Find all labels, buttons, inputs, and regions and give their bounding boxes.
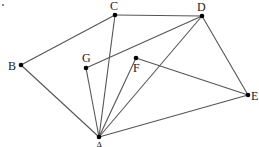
edge-da <box>99 16 202 137</box>
label-g: G <box>82 51 91 65</box>
labels-group: ABCDEFG <box>8 0 258 147</box>
vertex-f <box>134 56 139 61</box>
edge-de <box>202 16 248 95</box>
label-c: C <box>110 0 118 13</box>
geometry-diagram: ABCDEFG <box>0 0 259 147</box>
label-b: B <box>8 59 16 73</box>
corner-speck <box>2 4 4 6</box>
label-d: D <box>197 0 206 14</box>
edge-cd <box>115 15 202 16</box>
edge-ae <box>99 95 248 137</box>
edge-bc <box>21 15 115 65</box>
vertex-d <box>200 14 205 19</box>
vertex-g <box>84 66 89 71</box>
vertices-group <box>19 13 251 140</box>
label-e: E <box>251 89 258 103</box>
label-a: A <box>95 139 104 147</box>
vertex-c <box>113 13 118 18</box>
edges-group <box>21 15 248 137</box>
label-f: F <box>133 61 140 75</box>
vertex-e <box>246 93 251 98</box>
vertex-b <box>19 63 24 68</box>
edge-fe <box>136 58 248 95</box>
